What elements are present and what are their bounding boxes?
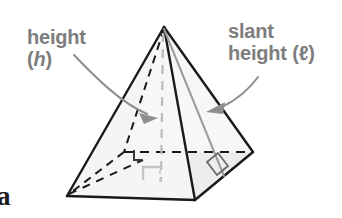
slant-height-label-line2: height (ℓ) bbox=[228, 42, 315, 64]
slant-height-label: slant height (ℓ) bbox=[228, 20, 315, 65]
height-label-paren-close: ) bbox=[46, 48, 52, 70]
slant-height-variable: (ℓ) bbox=[287, 42, 315, 64]
height-variable: h bbox=[33, 48, 45, 70]
pyramid-figure: height (h) slant height (ℓ) a bbox=[0, 0, 342, 218]
height-label-line2: (h) bbox=[27, 48, 86, 70]
arrow-curve-slant bbox=[222, 77, 258, 107]
page-item-letter: a bbox=[0, 183, 11, 210]
height-label: height (h) bbox=[27, 26, 86, 71]
slant-height-label-word: height bbox=[228, 42, 287, 64]
height-label-line1: height bbox=[27, 26, 86, 48]
slant-height-label-line1: slant bbox=[228, 20, 274, 42]
